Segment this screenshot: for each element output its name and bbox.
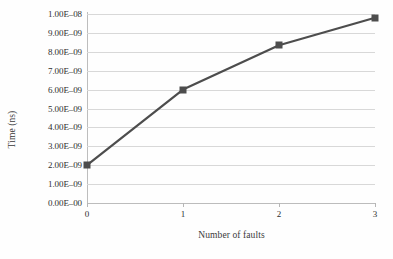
data-point-marker xyxy=(180,86,187,93)
y-axis-tick-label: 1.00E–08 xyxy=(48,9,82,19)
y-axis-tick-label: 3.00E–09 xyxy=(48,141,82,151)
x-axis-title: Number of faults xyxy=(87,230,376,240)
y-axis-tick-label: 1.00E–09 xyxy=(48,179,82,189)
data-point-marker xyxy=(84,162,91,169)
x-axis-tick-mark xyxy=(87,203,88,207)
y-axis-tick-label: 0.00E–00 xyxy=(48,198,82,208)
y-axis-tick-label: 8.00E–09 xyxy=(48,47,82,57)
y-axis-tick-label: 7.00E–09 xyxy=(48,66,82,76)
data-point-marker xyxy=(372,14,379,21)
x-axis-tick-label: 0 xyxy=(85,209,90,220)
x-axis-tick-mark xyxy=(183,203,184,207)
y-axis-tick-label: 2.00E–09 xyxy=(48,160,82,170)
plot-area xyxy=(87,14,375,203)
y-axis-title: Time (ns) xyxy=(0,0,24,259)
x-axis-tick-label: 1 xyxy=(181,209,186,220)
x-axis-tick-label: 3 xyxy=(373,209,378,220)
x-axis-tick-label: 2 xyxy=(277,209,282,220)
y-axis-tick-label: 6.00E–09 xyxy=(48,85,82,95)
y-axis-tick-label: 4.00E–09 xyxy=(48,122,82,132)
y-axis-tick-label: 9.00E–09 xyxy=(48,28,82,38)
x-axis-tick-labels: 0123 xyxy=(87,203,376,229)
x-axis-tick-mark xyxy=(375,203,376,207)
data-point-marker xyxy=(276,42,283,49)
x-axis-tick-mark xyxy=(279,203,280,207)
y-axis-tick-labels: 0.00E–001.00E–092.00E–093.00E–094.00E–09… xyxy=(22,14,82,203)
y-axis-tick-label: 5.00E–09 xyxy=(48,104,82,114)
series-line xyxy=(87,14,375,203)
line-chart-figure: Time (ns) 0.00E–001.00E–092.00E–093.00E–… xyxy=(0,0,393,259)
